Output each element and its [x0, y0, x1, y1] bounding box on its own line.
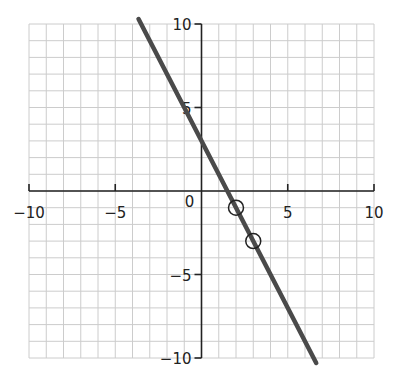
y-tick-label: −10	[160, 350, 192, 368]
y-tick-label: 10	[172, 16, 191, 34]
x-tick-label: 5	[283, 204, 293, 222]
coordinate-plane-chart: −10−5510105−5−100	[0, 0, 397, 376]
y-tick-label: −5	[169, 267, 191, 285]
origin-label: 0	[185, 193, 195, 211]
x-tick-label: 10	[364, 204, 383, 222]
tick-labels: −10−5510105−5−100	[13, 16, 383, 368]
x-tick-label: −5	[104, 204, 126, 222]
x-tick-label: −10	[13, 204, 45, 222]
